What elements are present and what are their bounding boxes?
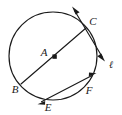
line-l-shaft <box>75 11 103 57</box>
geometry-figure: A B C E F ℓ <box>0 0 122 115</box>
label-a: A <box>40 46 48 58</box>
label-f: F <box>85 84 93 96</box>
line-l-arrowhead-lower <box>97 54 105 62</box>
line-l-arrowhead-upper <box>72 7 80 15</box>
label-line-l: ℓ <box>109 59 113 70</box>
center-point-dot-a <box>52 54 56 58</box>
geometry-canvas: A B C E F ℓ <box>0 0 122 115</box>
label-b: B <box>12 83 19 95</box>
label-c: C <box>89 15 97 27</box>
label-e: E <box>44 101 52 113</box>
